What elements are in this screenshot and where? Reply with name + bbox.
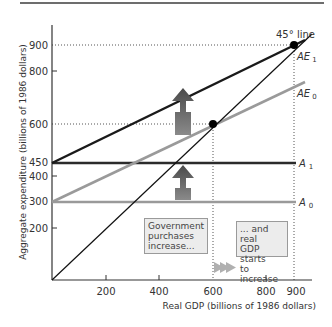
svg-text:800: 800 (29, 66, 48, 77)
x-axis-title: Real GDP (billions of 1986 dollars) (163, 301, 316, 311)
svg-text:200: 200 (29, 223, 48, 234)
svg-text:300: 300 (29, 196, 48, 207)
svg-text:400: 400 (29, 171, 48, 182)
label-45-line: 45° line (276, 29, 315, 40)
svg-text:800: 800 (256, 286, 275, 297)
label-ae0: AE0 (296, 88, 317, 101)
y-tick-labels: 900 800 600 450 400 300 200 (29, 40, 48, 234)
y-axis-title: Aggregate expenditure (billions of 1986 … (18, 44, 28, 260)
ae1-line (52, 40, 305, 163)
x-tick-labels: 200 400 600 800 900 (96, 286, 305, 297)
equilibrium-point-new (290, 41, 298, 49)
svg-text:600: 600 (29, 119, 48, 130)
y-ticks (52, 71, 57, 228)
up-arrow-icon (172, 165, 194, 200)
svg-text:900: 900 (29, 40, 48, 51)
svg-text:400: 400 (149, 286, 168, 297)
annotation-gdp-increase: ... and real GDP starts to increase (236, 221, 288, 257)
svg-text:900: 900 (286, 286, 305, 297)
label-a1: A1 (298, 158, 313, 171)
label-ae1: AE1 (296, 51, 317, 64)
right-arrow-icon (214, 262, 236, 273)
equilibrium-point-initial (209, 120, 217, 128)
label-a0: A0 (298, 197, 313, 210)
annotation-government-purchases: Government purchases increase... (144, 218, 208, 254)
svg-text:200: 200 (96, 286, 115, 297)
svg-text:450: 450 (29, 157, 48, 168)
svg-text:600: 600 (203, 286, 222, 297)
